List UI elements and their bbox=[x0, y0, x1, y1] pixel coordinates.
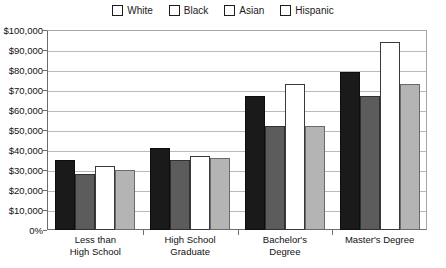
x-axis-category-label: Bachelor'sDegree bbox=[263, 234, 307, 257]
y-axis-tick-label: $30,000 bbox=[9, 165, 43, 176]
x-axis-category-label-line: High School bbox=[165, 234, 216, 246]
x-axis: Less thanHigh SchoolHigh SchoolGraduateB… bbox=[48, 234, 427, 266]
legend-swatch-asian-icon bbox=[224, 5, 235, 16]
bar-hispanic-3 bbox=[400, 84, 420, 230]
y-axis-tick-mark bbox=[43, 210, 47, 211]
y-axis-tick-mark bbox=[43, 70, 47, 71]
legend-entry-asian[interactable]: Asian bbox=[224, 5, 264, 16]
x-axis-tick-mark bbox=[238, 230, 239, 235]
y-axis-tick-mark bbox=[43, 110, 47, 111]
y-axis-tick-label: $90,000 bbox=[9, 45, 43, 56]
y-axis-tick-label: $70,000 bbox=[9, 85, 43, 96]
y-axis-tick-mark bbox=[43, 230, 47, 231]
y-axis-tick-mark bbox=[43, 50, 47, 51]
bars-layer bbox=[48, 30, 427, 230]
bar-hispanic-0 bbox=[115, 170, 135, 230]
bar-white-2 bbox=[245, 96, 265, 230]
x-axis-category-label-line: Less than bbox=[70, 234, 121, 246]
y-axis-tick-label: $10,000 bbox=[9, 205, 43, 216]
y-axis-tick-mark bbox=[43, 30, 47, 31]
legend-label-hispanic: Hispanic bbox=[295, 5, 333, 16]
x-axis-category-label-line: High School bbox=[70, 246, 121, 258]
x-axis-category-label: High SchoolGraduate bbox=[165, 234, 216, 257]
legend-label-white: White bbox=[127, 5, 153, 16]
y-axis-tick-label: $60,000 bbox=[9, 105, 43, 116]
y-axis-tick-mark bbox=[43, 190, 47, 191]
y-axis: $100,000$90,000$80,000$70,000$60,000$50,… bbox=[0, 30, 43, 230]
x-axis-tick-mark bbox=[143, 230, 144, 235]
bar-black-0 bbox=[75, 174, 95, 230]
bar-asian-0 bbox=[95, 166, 115, 230]
bar-white-3 bbox=[340, 72, 360, 230]
y-axis-tick-mark bbox=[43, 90, 47, 91]
x-axis-tick-mark bbox=[332, 230, 333, 235]
y-axis-tick-label: 0% bbox=[29, 225, 43, 236]
legend-swatch-hispanic-icon bbox=[280, 5, 291, 16]
x-axis-category-label-line: Degree bbox=[263, 246, 307, 258]
y-axis-tick-label: $80,000 bbox=[9, 65, 43, 76]
x-axis-category-label: Less thanHigh School bbox=[70, 234, 121, 257]
bar-hispanic-2 bbox=[305, 126, 325, 230]
bar-chart: White Black Asian Hispanic $100,000$90,0… bbox=[0, 0, 446, 268]
bar-black-1 bbox=[170, 160, 190, 230]
y-axis-tick-label: $40,000 bbox=[9, 145, 43, 156]
bar-asian-3 bbox=[380, 42, 400, 230]
bar-asian-2 bbox=[285, 84, 305, 230]
bar-black-3 bbox=[360, 96, 380, 230]
y-axis-tick-label: $100,000 bbox=[3, 25, 43, 36]
legend-entry-hispanic[interactable]: Hispanic bbox=[280, 5, 333, 16]
legend-label-asian: Asian bbox=[239, 5, 264, 16]
bar-white-0 bbox=[55, 160, 75, 230]
legend-entry-black[interactable]: Black bbox=[169, 5, 208, 16]
y-axis-tick-label: $50,000 bbox=[9, 125, 43, 136]
y-axis-tick-mark bbox=[43, 130, 47, 131]
bar-asian-1 bbox=[190, 156, 210, 230]
bar-black-2 bbox=[265, 126, 285, 230]
x-axis-category-label-line: Bachelor's bbox=[263, 234, 307, 246]
legend-swatch-black-icon bbox=[169, 5, 180, 16]
x-axis-category-label-line: Master's Degree bbox=[345, 234, 414, 246]
x-axis-category-label-line: Graduate bbox=[165, 246, 216, 258]
y-axis-tick-mark bbox=[43, 150, 47, 151]
legend-swatch-white-icon bbox=[112, 5, 123, 16]
y-axis-tick-label: $20,000 bbox=[9, 185, 43, 196]
x-axis-category-label: Master's Degree bbox=[345, 234, 414, 246]
bar-white-1 bbox=[150, 148, 170, 230]
legend-entry-white[interactable]: White bbox=[112, 5, 153, 16]
legend-label-black: Black bbox=[184, 5, 208, 16]
chart-legend: White Black Asian Hispanic bbox=[0, 5, 446, 16]
y-axis-tick-mark bbox=[43, 170, 47, 171]
bar-hispanic-1 bbox=[210, 158, 230, 230]
